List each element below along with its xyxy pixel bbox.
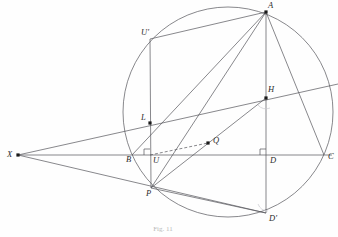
point-labels-group: AU'HLXBUQDCPD' (6, 0, 334, 223)
segment-X-to-H (18, 84, 338, 155)
point-label-Uprime: U' (141, 27, 149, 37)
right-angle-marks-group (144, 149, 266, 155)
point-dot-A (264, 10, 267, 13)
segment-A-to-Uprime (150, 12, 266, 39)
point-label-P: P (145, 188, 151, 198)
point-label-H: H (267, 84, 275, 94)
point-label-U: U (153, 155, 160, 165)
right-angle-at-U (144, 149, 150, 155)
point-label-D: D (269, 155, 277, 165)
angle-arcs-group (258, 105, 270, 211)
segment-A-to-P (151, 12, 266, 188)
angle-arc-at-H (258, 105, 270, 109)
point-label-A: A (267, 0, 274, 10)
point-dot-Q (206, 141, 209, 144)
point-label-L: L (140, 112, 146, 122)
point-label-C: C (328, 151, 334, 161)
point-label-B: B (126, 154, 131, 164)
point-dot-L (148, 121, 151, 124)
point-label-Dprime: D' (268, 213, 277, 223)
segment-A-to-C (266, 12, 324, 155)
geometry-canvas: AU'HLXBUQDCPD' Fig. 11 (0, 0, 338, 237)
point-dot-X (16, 153, 19, 156)
right-angle-at-D (260, 149, 266, 155)
point-dot-H (264, 96, 267, 99)
segments-group (18, 12, 338, 213)
figure-caption: Fig. 11 (153, 225, 173, 233)
segment-P-to-Dprime (151, 188, 266, 213)
segment-A-to-B (132, 12, 266, 155)
point-label-X: X (6, 149, 13, 159)
segment-X-to-Dprime (18, 155, 266, 213)
geometry-figure: AU'HLXBUQDCPD' Fig. 11 (0, 0, 338, 237)
point-label-Q: Q (213, 135, 219, 145)
segment-Uprime-to-P (150, 39, 151, 188)
